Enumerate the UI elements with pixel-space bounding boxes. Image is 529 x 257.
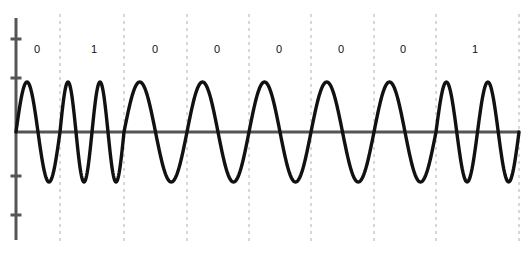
bit-label-0: 0 [34, 44, 40, 55]
bit-label-6: 0 [400, 44, 406, 55]
bit-label-3: 0 [214, 44, 220, 55]
bit-label-4: 0 [276, 44, 282, 55]
bit-label-1: 1 [91, 44, 97, 55]
bit-boundary-gridlines [60, 14, 519, 243]
bit-label-5: 0 [338, 44, 344, 55]
plot-canvas [0, 0, 529, 257]
bit-label-2: 0 [152, 44, 158, 55]
bfsk-plot-figure: 01000001 [0, 0, 529, 257]
bit-label-7: 1 [472, 44, 478, 55]
